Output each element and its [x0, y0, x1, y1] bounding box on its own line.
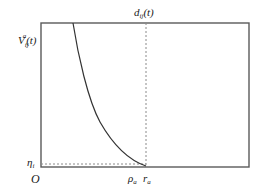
- label-eta-i: ηi: [27, 156, 34, 170]
- plot-frame: [41, 23, 249, 167]
- plot-canvas: Vija(t) ηi O ρa ra dij(t): [0, 0, 257, 193]
- label-v-ij-a: Vija(t): [18, 32, 37, 49]
- decay-curve: [73, 23, 146, 166]
- label-rho-a: ρa: [127, 172, 137, 186]
- label-d-ij: dij(t): [134, 6, 154, 20]
- label-r-a: ra: [143, 172, 151, 186]
- label-origin: O: [31, 172, 40, 186]
